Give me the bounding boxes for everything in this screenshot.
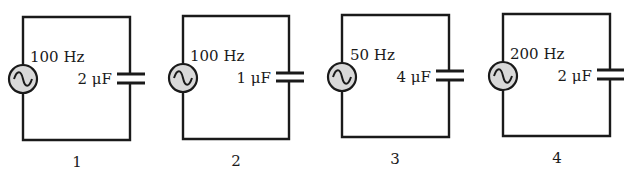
capacitance-label: 1 μF bbox=[237, 69, 271, 87]
circuit-4: 200 Hz 2 μF 4 bbox=[489, 14, 624, 167]
circuit-number: 2 bbox=[231, 152, 241, 170]
ac-source-icon bbox=[489, 62, 517, 90]
capacitance-label: 2 μF bbox=[558, 67, 592, 85]
ac-source-icon bbox=[328, 63, 356, 91]
circuit-3: 50 Hz 4 μF 3 bbox=[328, 15, 464, 168]
circuit-1: 100 Hz 2 μF 1 bbox=[9, 17, 145, 171]
frequency-label: 100 Hz bbox=[30, 48, 84, 66]
circuit-2: 100 Hz 1 μF 2 bbox=[169, 16, 304, 170]
ac-source-icon bbox=[169, 64, 197, 92]
capacitance-label: 2 μF bbox=[78, 70, 112, 88]
ac-source-icon bbox=[9, 65, 37, 93]
capacitance-label: 4 μF bbox=[397, 68, 431, 86]
circuit-1-wire bbox=[23, 17, 130, 140]
circuit-number: 4 bbox=[552, 149, 562, 167]
frequency-label: 100 Hz bbox=[190, 47, 244, 65]
circuit-diagram: 100 Hz 2 μF 1 100 Hz 1 μF 2 50 Hz 4 μF 3 bbox=[0, 0, 625, 184]
frequency-label: 200 Hz bbox=[510, 45, 564, 63]
circuit-4-wire bbox=[503, 14, 610, 136]
circuit-number: 3 bbox=[390, 150, 400, 168]
frequency-label: 50 Hz bbox=[350, 46, 395, 64]
circuit-3-wire bbox=[342, 15, 449, 137]
circuit-number: 1 bbox=[72, 153, 82, 171]
